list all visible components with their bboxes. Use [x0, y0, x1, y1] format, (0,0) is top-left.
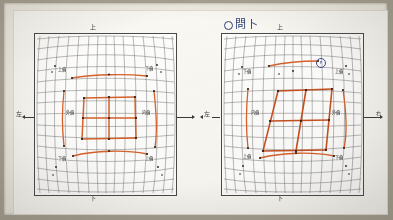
annotation-right-tr: 上偏: [335, 70, 344, 74]
distortion-grid-right: [222, 34, 363, 195]
axis-label-top-left-panel: 上: [90, 24, 96, 30]
annotation-right-ml: 内偏: [251, 111, 260, 115]
axis-label-top-right-panel: 上: [277, 24, 283, 30]
annotation-left-bl: 下偏: [58, 157, 67, 161]
axis-label-left-right-panel: 左: [204, 111, 210, 117]
axis-arrowhead-left-left-panel: [22, 115, 25, 119]
screenshot-root: 問卜 上 下 左: [0, 0, 393, 220]
annotation-right-tl: 下偏: [243, 70, 252, 74]
distortion-grid-left: [35, 34, 176, 195]
annotation-right-bl: 上偏: [243, 155, 252, 159]
annotation-left-tr: 下偏: [145, 67, 154, 71]
annotation-right-br: 下偏: [335, 156, 344, 160]
annotation-right-mr: 外偏: [332, 111, 341, 115]
circled-point-marker: P: [316, 58, 326, 68]
paper-sheet: 問卜 上 下 左: [13, 10, 388, 215]
photo-mount: 問卜 上 下 左: [4, 3, 387, 215]
panel-left: 上 下 左: [14, 11, 199, 214]
axis-label-right-right-panel: 右: [376, 111, 381, 116]
panel-right: 上 下 左 右: [199, 11, 387, 214]
annotation-left-ml: 外偏: [66, 111, 75, 115]
axis-arrow-left-left-panel: [25, 117, 34, 118]
plot-frame-right: [221, 33, 364, 196]
plot-frame-left: [34, 33, 177, 196]
annotation-left-mr: 内偏: [142, 111, 151, 115]
axis-arrow-right-right-panel: [362, 117, 380, 118]
annotation-left-tl: 上偏: [58, 68, 67, 72]
annotation-left-br: 上偏: [145, 157, 154, 161]
axis-arrowhead-right-left-panel: [192, 115, 195, 119]
axis-arrow-left-right-panel: [212, 117, 220, 118]
axis-arrowhead-left-right-panel: [200, 115, 203, 119]
